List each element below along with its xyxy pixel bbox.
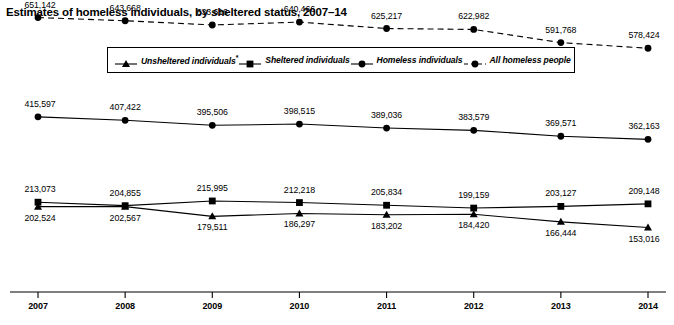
data-value-label: 651,142	[24, 0, 55, 10]
circle-marker-icon	[350, 55, 374, 65]
data-value-label: 369,571	[545, 118, 576, 128]
x-axis-ticks	[38, 292, 648, 298]
data-point-marker	[557, 39, 564, 46]
data-value-label: 212,218	[284, 185, 315, 195]
legend-item-3[interactable]: All homeless people	[463, 55, 571, 65]
data-point-marker	[122, 202, 129, 209]
data-point-marker	[209, 22, 216, 29]
data-value-label: 203,127	[545, 188, 576, 198]
data-point-marker	[645, 200, 652, 207]
data-value-label: 362,163	[628, 121, 659, 131]
x-axis-tick-label: 2010	[290, 301, 310, 311]
data-value-label: 640,466	[284, 4, 315, 14]
data-point-marker	[209, 198, 216, 205]
data-value-label: 395,506	[197, 107, 228, 117]
data-value-label: 153,016	[628, 234, 659, 244]
data-point-marker	[296, 19, 303, 26]
data-point-marker	[383, 25, 390, 32]
legend-item-label: All homeless people	[490, 55, 571, 65]
data-point-marker	[35, 14, 42, 21]
chart-page: Estimates of homeless individuals, by sh…	[0, 0, 674, 325]
x-axis-tick-label: 2008	[115, 301, 135, 311]
x-axis-tick-label: 2011	[377, 301, 396, 311]
data-point-marker	[470, 205, 477, 212]
legend-item-1[interactable]: Sheltered individuals	[238, 55, 349, 65]
data-point-marker	[122, 117, 129, 124]
data-value-label: 184,420	[458, 220, 489, 230]
data-value-label: 202,524	[24, 213, 55, 223]
data-value-label: 625,217	[371, 11, 402, 21]
data-value-label: 215,995	[197, 183, 228, 193]
x-axis-tick-label: 2013	[551, 301, 571, 311]
data-value-label: 183,202	[371, 221, 402, 231]
legend-item-label: Unsheltered individuals*	[141, 54, 238, 66]
data-point-marker	[470, 26, 477, 33]
data-value-label: 186,297	[284, 219, 315, 229]
data-point-marker	[296, 121, 303, 128]
data-value-label: 578,424	[628, 30, 659, 40]
x-axis-tick-label: 2007	[28, 301, 48, 311]
data-point-marker	[35, 199, 42, 206]
data-point-marker	[645, 136, 652, 143]
data-point-marker	[470, 127, 477, 134]
data-value-label: 205,834	[371, 187, 402, 197]
data-value-label: 591,768	[545, 25, 576, 35]
data-value-label: 204,855	[110, 188, 141, 198]
data-value-label: 389,036	[371, 110, 402, 120]
data-point-marker	[122, 17, 129, 24]
data-value-label: 199,159	[458, 190, 489, 200]
data-value-label: 209,148	[628, 186, 659, 196]
triangle-marker-icon	[114, 55, 138, 65]
data-point-marker	[557, 203, 564, 210]
x-axis-tick-label: 2012	[464, 301, 484, 311]
data-value-label: 415,597	[24, 99, 55, 109]
x-axis-tick-label: 2009	[202, 301, 222, 311]
circle-marker-icon	[463, 55, 487, 65]
data-point-marker	[296, 199, 303, 206]
square-marker-icon	[238, 55, 262, 65]
legend: Unsheltered individuals*Sheltered indivi…	[107, 47, 575, 73]
data-value-label: 383,579	[458, 112, 489, 122]
data-value-label: 166,444	[545, 228, 576, 238]
data-value-label: 622,982	[458, 11, 489, 21]
legend-items: Unsheltered individuals*Sheltered indivi…	[108, 48, 574, 72]
data-value-label: 643,668	[110, 3, 141, 13]
x-axis-tick-label: 2014	[638, 301, 658, 311]
data-point-marker	[645, 45, 652, 52]
data-value-label: 633,616	[197, 7, 228, 17]
data-point-marker	[383, 202, 390, 209]
x-axis	[10, 292, 666, 298]
data-value-label: 213,073	[24, 184, 55, 194]
data-point-marker	[383, 125, 390, 132]
data-point-marker	[35, 113, 42, 120]
data-point-marker	[557, 133, 564, 140]
data-value-label: 398,515	[284, 106, 315, 116]
legend-item-2[interactable]: Homeless individuals	[350, 55, 463, 65]
legend-item-label: Sheltered individuals	[265, 55, 349, 65]
data-value-label: 179,511	[197, 222, 227, 232]
data-value-label: 407,422	[110, 102, 141, 112]
legend-item-0[interactable]: Unsheltered individuals*	[114, 54, 238, 66]
data-point-marker	[209, 122, 216, 129]
legend-item-label: Homeless individuals	[377, 55, 463, 65]
data-value-label: 202,567	[110, 213, 141, 223]
